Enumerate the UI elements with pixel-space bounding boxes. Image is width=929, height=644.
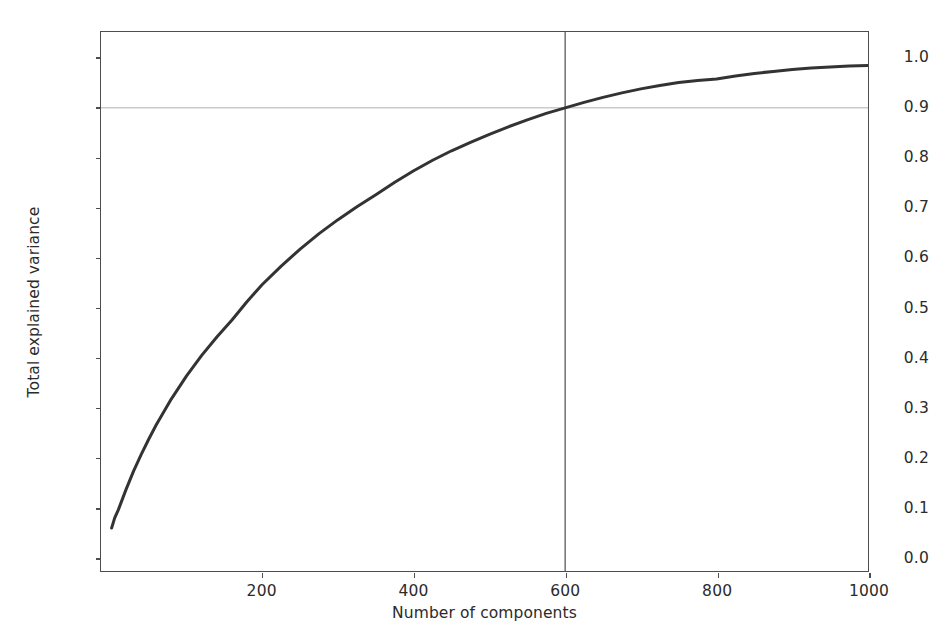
pca-variance-chart-figure: Total explained variance 0.00.10.20.30.4… bbox=[0, 0, 929, 644]
x-axis-label: Number of components bbox=[100, 604, 869, 622]
x-tick-mark bbox=[566, 573, 567, 578]
x-tick-mark bbox=[414, 573, 415, 578]
x-tick-label: 1000 bbox=[849, 582, 889, 600]
y-tick-mark bbox=[96, 208, 101, 209]
x-tick-label: 400 bbox=[398, 582, 428, 600]
y-axis-label: Total explained variance bbox=[24, 31, 44, 572]
y-tick-mark bbox=[96, 458, 101, 459]
y-axis-label-text: Total explained variance bbox=[25, 206, 43, 397]
cumulative-variance-curve bbox=[112, 65, 868, 528]
y-tick-mark bbox=[96, 508, 101, 509]
plot-svg bbox=[101, 32, 868, 571]
y-tick-mark bbox=[96, 308, 101, 309]
y-tick-mark bbox=[96, 558, 101, 559]
plot-area bbox=[100, 31, 869, 572]
x-tick-mark bbox=[869, 573, 870, 578]
y-tick-mark bbox=[96, 107, 101, 108]
y-tick-mark bbox=[96, 258, 101, 259]
y-tick-mark bbox=[96, 57, 101, 58]
x-tick-label: 800 bbox=[702, 582, 732, 600]
x-tick-mark bbox=[262, 573, 263, 578]
x-tick-mark bbox=[718, 573, 719, 578]
y-tick-mark bbox=[96, 408, 101, 409]
x-tick-label: 200 bbox=[247, 582, 277, 600]
y-tick-mark bbox=[96, 358, 101, 359]
x-tick-label: 600 bbox=[550, 582, 580, 600]
y-tick-mark bbox=[96, 158, 101, 159]
